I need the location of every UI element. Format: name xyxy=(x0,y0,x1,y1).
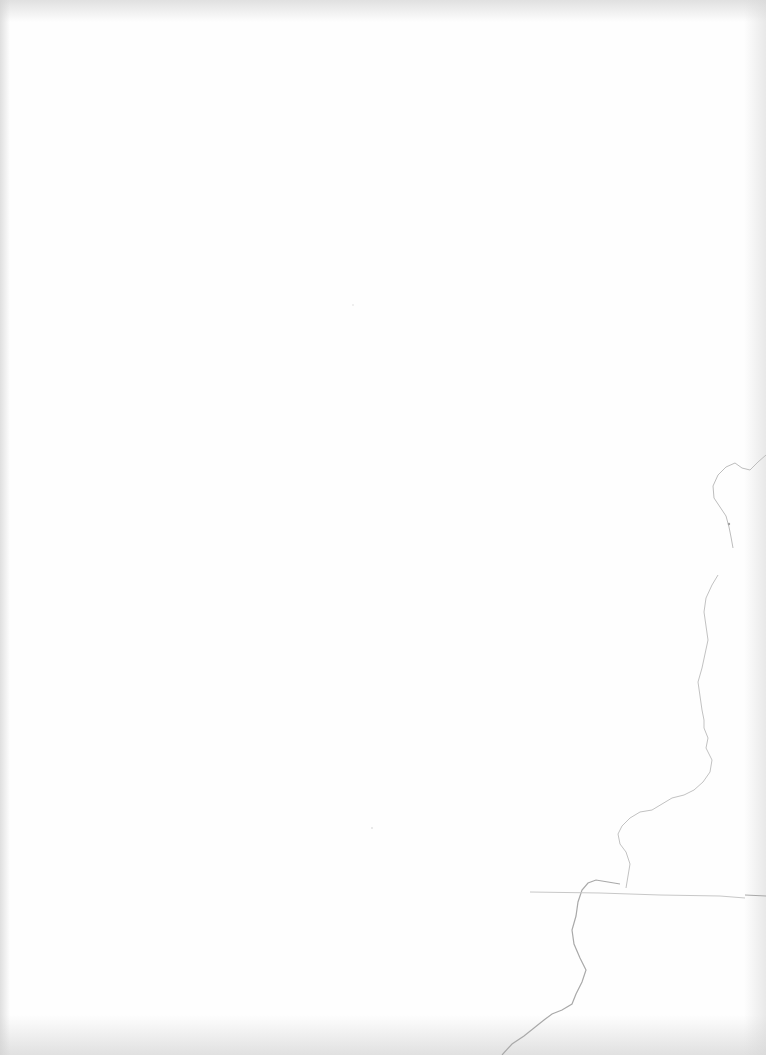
paper-crack-artifacts xyxy=(0,0,766,1055)
crack-line-upper xyxy=(713,455,766,548)
dust-speck xyxy=(728,523,730,525)
blank-document-page xyxy=(0,0,766,1055)
crack-line-lower xyxy=(502,880,620,1055)
dust-speck xyxy=(352,304,354,306)
dust-speck xyxy=(371,827,373,829)
crack-line-middle xyxy=(618,575,718,888)
fold-line-end xyxy=(745,895,766,896)
fold-line xyxy=(530,892,745,898)
